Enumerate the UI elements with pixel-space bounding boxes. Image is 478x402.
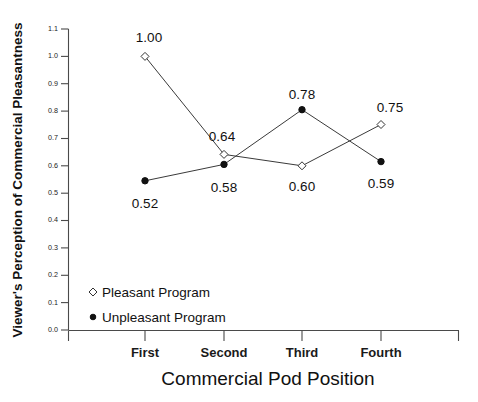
chart-figure: 1.1 1.0 0.9 0.8 0.7 0.6 0.5 0.4 0.3 0.2 … [0, 0, 478, 402]
y-tick-label: 1.0 [48, 51, 58, 60]
x-tick-label-third: Third [286, 345, 319, 360]
series-line-pleasant-program [145, 56, 381, 165]
legend-marker-open-diamond-icon [89, 288, 97, 296]
y-tick-label: 0.7 [48, 133, 58, 142]
y-axis-ticks [61, 29, 69, 330]
data-point-unpleasant-second [221, 161, 227, 167]
y-tick-label: 0.6 [48, 161, 58, 170]
data-label-unpleasant-fourth: 0.59 [368, 176, 394, 191]
y-tick-label: 0.2 [48, 270, 58, 279]
x-axis-tick-labels: First Second Third Fourth [131, 345, 402, 360]
y-tick-label: 0.5 [48, 188, 58, 197]
data-point-pleasant-fourth [377, 121, 385, 129]
data-point-unpleasant-fourth [378, 158, 384, 164]
data-label-unpleasant-second: 0.58 [211, 180, 237, 195]
y-tick-label: 1.1 [48, 24, 58, 33]
x-tick-label-fourth: Fourth [360, 345, 401, 360]
series-line-unpleasant-program [145, 110, 381, 181]
x-axis-title: Commercial Pod Position [161, 368, 374, 389]
legend-marker-filled-circle-icon [90, 314, 96, 320]
y-tick-label: 0.8 [48, 106, 58, 115]
y-axis-tick-labels: 1.1 1.0 0.9 0.8 0.7 0.6 0.5 0.4 0.3 0.2 … [48, 24, 58, 334]
y-axis-title: Viewer's Perception of Commercial Pleasa… [10, 22, 25, 337]
line-chart-svg: 1.1 1.0 0.9 0.8 0.7 0.6 0.5 0.4 0.3 0.2 … [0, 0, 478, 402]
x-tick-label-second: Second [201, 345, 248, 360]
data-label-pleasant-third: 0.60 [289, 179, 315, 194]
chart-legend: Pleasant Program Unpleasant Program [89, 285, 226, 325]
y-tick-label: 0.1 [48, 298, 58, 307]
y-tick-label: 0.0 [48, 325, 58, 334]
legend-label-pleasant-program: Pleasant Program [102, 285, 210, 300]
data-point-unpleasant-third [299, 107, 305, 113]
data-point-unpleasant-first [142, 178, 148, 184]
x-tick-label-first: First [131, 345, 160, 360]
data-label-pleasant-second: 0.64 [209, 129, 236, 144]
data-labels-unpleasant-program: 0.52 0.58 0.78 0.59 [132, 87, 394, 211]
series-markers-pleasant-program [141, 52, 385, 169]
data-label-pleasant-fourth: 0.75 [377, 100, 403, 115]
data-label-pleasant-first: 1.00 [136, 30, 162, 45]
x-axis-ticks [69, 331, 459, 342]
data-labels-pleasant-program: 1.00 0.64 0.60 0.75 [136, 30, 403, 194]
data-point-pleasant-third [298, 162, 306, 170]
y-tick-label: 0.4 [48, 215, 58, 224]
data-label-unpleasant-first: 0.52 [132, 196, 158, 211]
y-tick-label: 0.3 [48, 243, 58, 252]
legend-label-unpleasant-program: Unpleasant Program [102, 310, 226, 325]
series-markers-unpleasant-program [142, 107, 384, 185]
y-tick-label: 0.9 [48, 79, 58, 88]
data-label-unpleasant-third: 0.78 [289, 87, 315, 102]
